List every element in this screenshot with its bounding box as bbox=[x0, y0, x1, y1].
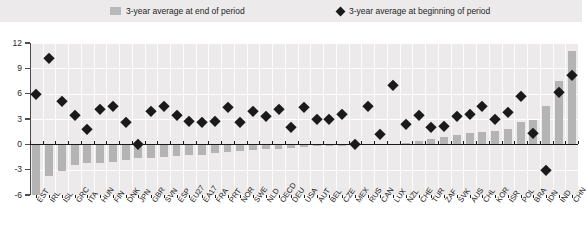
marker-CHL bbox=[477, 101, 488, 112]
marker-HUN bbox=[95, 104, 106, 115]
marker-CAN bbox=[375, 129, 386, 140]
vertical-gridline bbox=[387, 43, 388, 195]
axis-tick bbox=[196, 141, 197, 145]
axis-tick bbox=[514, 141, 515, 145]
gridline bbox=[30, 68, 578, 69]
marker-ZAF bbox=[439, 120, 450, 131]
gridline bbox=[30, 43, 578, 44]
marker-GBR bbox=[146, 106, 157, 117]
axis-tick bbox=[119, 141, 120, 145]
vertical-gridline bbox=[502, 43, 503, 195]
y-axis-label: -6 bbox=[2, 190, 22, 200]
bar-CHN bbox=[568, 51, 576, 144]
axis-tick bbox=[145, 141, 146, 145]
axis-tick bbox=[208, 141, 209, 145]
axis-tick bbox=[540, 141, 541, 145]
vertical-gridline bbox=[68, 43, 69, 195]
marker-LUX bbox=[388, 80, 399, 91]
axis-tick bbox=[81, 141, 82, 145]
vertical-gridline bbox=[247, 43, 248, 195]
axis-tick bbox=[374, 141, 375, 145]
marker-POL bbox=[515, 91, 526, 102]
vertical-gridline bbox=[336, 43, 337, 195]
axis-tick bbox=[361, 141, 362, 145]
vertical-gridline bbox=[55, 43, 56, 195]
axis-tick bbox=[183, 141, 184, 145]
marker-RUS bbox=[362, 101, 373, 112]
vertical-gridline bbox=[400, 43, 401, 195]
axis-tick bbox=[30, 141, 31, 145]
bar-GRC bbox=[71, 144, 79, 165]
axis-tick bbox=[221, 141, 222, 145]
vertical-gridline bbox=[540, 43, 541, 195]
bar-ITA bbox=[83, 144, 91, 163]
axis-tick bbox=[489, 141, 490, 145]
y-axis-line bbox=[30, 43, 31, 195]
diamond-marker-icon bbox=[336, 6, 346, 16]
vertical-gridline bbox=[272, 43, 273, 195]
axis-tick bbox=[68, 141, 69, 145]
bar-IDN bbox=[542, 106, 550, 144]
chart-legend: 3-year average at end of period 3-year a… bbox=[0, 0, 582, 22]
legend-label-beginning-of-period: 3-year average at beginning of period bbox=[349, 6, 490, 16]
legend-label-end-of-period: 3-year average at end of period bbox=[126, 6, 245, 16]
marker-CZE bbox=[337, 109, 348, 120]
marker-ITA bbox=[82, 124, 93, 135]
axis-tick bbox=[234, 141, 235, 145]
vertical-gridline bbox=[553, 43, 554, 195]
vertical-gridline bbox=[208, 43, 209, 195]
axis-tick bbox=[170, 141, 171, 145]
axis-tick bbox=[565, 141, 566, 145]
vertical-gridline bbox=[145, 43, 146, 195]
vertical-gridline bbox=[43, 43, 44, 195]
marker-BEL bbox=[324, 114, 335, 125]
axis-tick bbox=[463, 141, 464, 145]
marker-IRL bbox=[44, 53, 55, 64]
axis-tick bbox=[285, 141, 286, 145]
axis-tick bbox=[310, 141, 311, 145]
axis-tick bbox=[438, 141, 439, 145]
vertical-gridline bbox=[81, 43, 82, 195]
vertical-gridline bbox=[106, 43, 107, 195]
vertical-gridline bbox=[298, 43, 299, 195]
vertical-gridline bbox=[463, 43, 464, 195]
y-axis-label: 3 bbox=[2, 114, 22, 124]
axis-tick bbox=[106, 141, 107, 145]
marker-DEU bbox=[286, 122, 297, 133]
bar-EU27 bbox=[185, 144, 193, 155]
y-axis-label: 12 bbox=[2, 38, 22, 48]
bar-ISL bbox=[58, 144, 66, 171]
axis-tick bbox=[55, 141, 56, 145]
gridline bbox=[30, 94, 578, 95]
marker-AUT bbox=[311, 114, 322, 125]
marker-ISL bbox=[57, 96, 68, 107]
bar-POL bbox=[517, 122, 525, 144]
axis-tick bbox=[476, 141, 477, 145]
vertical-gridline bbox=[259, 43, 260, 195]
axis-tick bbox=[336, 141, 337, 145]
bar-EST bbox=[32, 144, 40, 195]
bar-SVN bbox=[160, 144, 168, 157]
bar-SWE bbox=[249, 144, 257, 150]
axis-tick bbox=[298, 141, 299, 145]
zero-axis-line bbox=[30, 144, 578, 145]
bar-FRA bbox=[211, 144, 219, 152]
bar-KOR bbox=[491, 131, 499, 145]
vertical-gridline bbox=[119, 43, 120, 195]
gridline bbox=[30, 170, 578, 171]
axis-tick bbox=[94, 141, 95, 145]
bar-ESP bbox=[173, 144, 181, 156]
marker-FIN bbox=[108, 101, 119, 112]
bar-swatch-icon bbox=[110, 7, 121, 15]
marker-MEX bbox=[350, 139, 361, 150]
axis-tick bbox=[553, 141, 554, 145]
bar-ISR bbox=[504, 129, 512, 144]
marker-OECD bbox=[273, 104, 284, 115]
marker-TUR bbox=[426, 122, 437, 133]
vertical-gridline bbox=[221, 43, 222, 195]
vertical-gridline bbox=[361, 43, 362, 195]
vertical-gridline bbox=[234, 43, 235, 195]
marker-SVN bbox=[159, 101, 170, 112]
y-axis-label: 0 bbox=[2, 139, 22, 149]
bar-HUN bbox=[96, 144, 104, 163]
